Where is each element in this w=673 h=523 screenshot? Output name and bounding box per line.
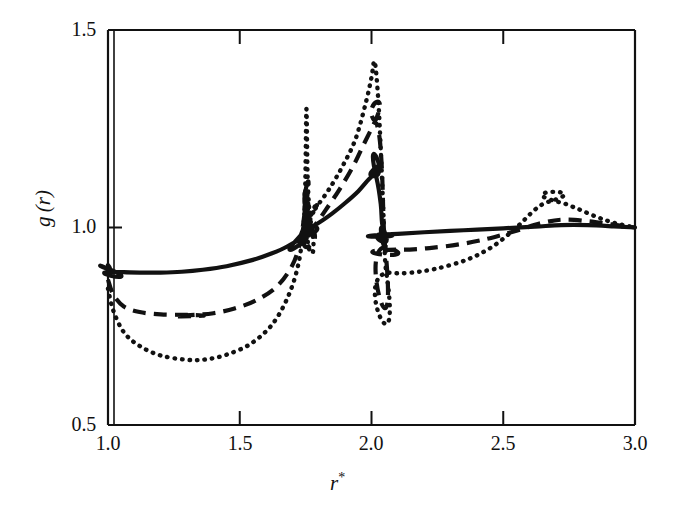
y-axis-title-g: g	[31, 216, 55, 227]
y-axis-title: g (r)	[31, 174, 56, 244]
figure-container: 1.5 1.0 0.5 1.0 1.5 2.0 2.5 3.0 g (r) r*	[0, 0, 673, 523]
x-axis-title: r*	[330, 470, 345, 496]
xtick-label-1.0: 1.0	[78, 432, 138, 455]
xtick-label-3.0: 3.0	[605, 432, 665, 455]
axis-ticks	[108, 30, 635, 425]
series-dashed	[108, 102, 635, 317]
xtick-label-1.5: 1.5	[210, 432, 270, 455]
xtick-label-2.5: 2.5	[473, 432, 533, 455]
data-series-layer	[100, 61, 635, 360]
axis-frame	[108, 30, 635, 425]
xtick-label-2.0: 2.0	[341, 432, 401, 455]
x-axis-title-star: *	[338, 470, 345, 485]
ytick-label-1.5: 1.5	[30, 18, 96, 41]
series-solid	[100, 154, 635, 277]
x-axis-title-r: r	[330, 471, 338, 495]
y-axis-title-r: (r)	[31, 190, 55, 212]
